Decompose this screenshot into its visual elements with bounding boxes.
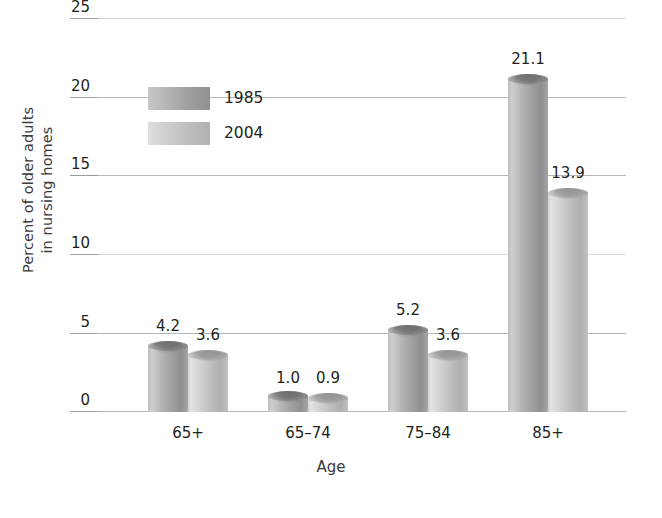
bar-value-label: 0.9 — [316, 370, 340, 387]
gridline-25: 25 — [98, 18, 626, 19]
tick-stub-25 — [70, 18, 98, 19]
bar-body — [148, 346, 188, 412]
y-tick-label-10: 10 — [71, 235, 90, 254]
bar-body — [188, 355, 228, 412]
bar-chart: Percent of older adults in nursing homes… — [0, 0, 662, 518]
y-axis-title-line-2: in nursing homes — [38, 126, 57, 253]
bar-value-label: 21.1 — [511, 51, 544, 68]
bar-1985-85plus[interactable]: 21.1 — [508, 79, 548, 412]
bar-2004-75-84[interactable]: 3.6 — [428, 355, 468, 412]
bar-value-label: 5.2 — [396, 302, 420, 319]
bar-top-cap — [428, 350, 468, 360]
plot-area: 25 20 15 10 5 0 4.2 — [98, 18, 632, 412]
x-tick-label-85plus: 85+ — [532, 424, 564, 442]
y-tick-label-15: 15 — [71, 156, 90, 175]
legend: 1985 2004 — [148, 86, 263, 156]
y-tick-label-20: 20 — [71, 78, 90, 97]
bar-body — [548, 193, 588, 412]
x-tick-label-75-84: 75–84 — [405, 424, 451, 442]
x-tick-label-65plus: 65+ — [172, 424, 204, 442]
bar-top-cap — [308, 393, 348, 403]
tick-stub-15 — [70, 175, 98, 176]
bar-value-label: 3.6 — [436, 327, 460, 344]
bar-2004-65-74[interactable]: 0.9 — [308, 398, 348, 412]
y-axis-title: Percent of older adults in nursing homes — [16, 70, 60, 310]
bar-top-cap — [188, 350, 228, 360]
y-tick-label-0: 0 — [80, 392, 90, 411]
bar-top-cap — [268, 391, 308, 401]
legend-label-1985: 1985 — [224, 89, 263, 107]
bar-body — [388, 330, 428, 412]
bar-value-label: 3.6 — [196, 327, 220, 344]
x-axis-title: Age — [0, 458, 662, 476]
legend-swatch-1985-icon — [148, 87, 210, 110]
tick-stub-0 — [70, 411, 98, 412]
bar-top-cap — [548, 188, 588, 198]
bar-1985-75-84[interactable]: 5.2 — [388, 330, 428, 412]
bar-1985-65plus[interactable]: 4.2 — [148, 346, 188, 412]
bar-top-cap — [148, 341, 188, 351]
bar-value-label: 13.9 — [551, 165, 584, 182]
y-axis-title-line-1: Percent of older adults — [19, 107, 38, 273]
bar-body — [508, 79, 548, 412]
y-tick-label-5: 5 — [80, 314, 90, 333]
bar-value-label: 4.2 — [156, 318, 180, 335]
legend-item-1985[interactable]: 1985 — [148, 86, 263, 110]
legend-item-2004[interactable]: 2004 — [148, 121, 263, 145]
bar-top-cap — [388, 325, 428, 335]
bar-value-label: 1.0 — [276, 370, 300, 387]
tick-stub-10 — [70, 254, 98, 255]
legend-label-2004: 2004 — [224, 124, 263, 142]
bar-2004-85plus[interactable]: 13.9 — [548, 193, 588, 412]
tick-stub-20 — [70, 97, 98, 98]
tick-stub-5 — [70, 333, 98, 334]
bar-2004-65plus[interactable]: 3.6 — [188, 355, 228, 412]
bar-body — [428, 355, 468, 412]
legend-swatch-2004-icon — [148, 122, 210, 145]
bar-1985-65-74[interactable]: 1.0 — [268, 396, 308, 412]
x-tick-label-65-74: 65–74 — [285, 424, 331, 442]
y-tick-label-25: 25 — [71, 0, 90, 18]
bar-top-cap — [508, 74, 548, 84]
